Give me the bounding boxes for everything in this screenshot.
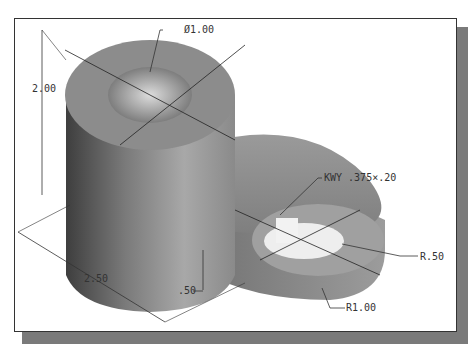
- height-dimension: 2.00: [32, 83, 56, 94]
- thickness-dimension: .50: [178, 285, 196, 296]
- part-drawing: 2.00 Ø1.00 KWY .375×.20 R.50 R1.00 2.50 …: [0, 0, 470, 353]
- keyway-dimension: KWY .375×.20: [324, 172, 396, 183]
- large-radius-dimension: R1.00: [346, 302, 376, 313]
- keyway-slot: [276, 218, 298, 243]
- length-dimension: 2.50: [84, 273, 108, 284]
- hole-diameter-dimension: Ø1.00: [184, 24, 214, 35]
- small-radius-dimension: R.50: [420, 251, 444, 262]
